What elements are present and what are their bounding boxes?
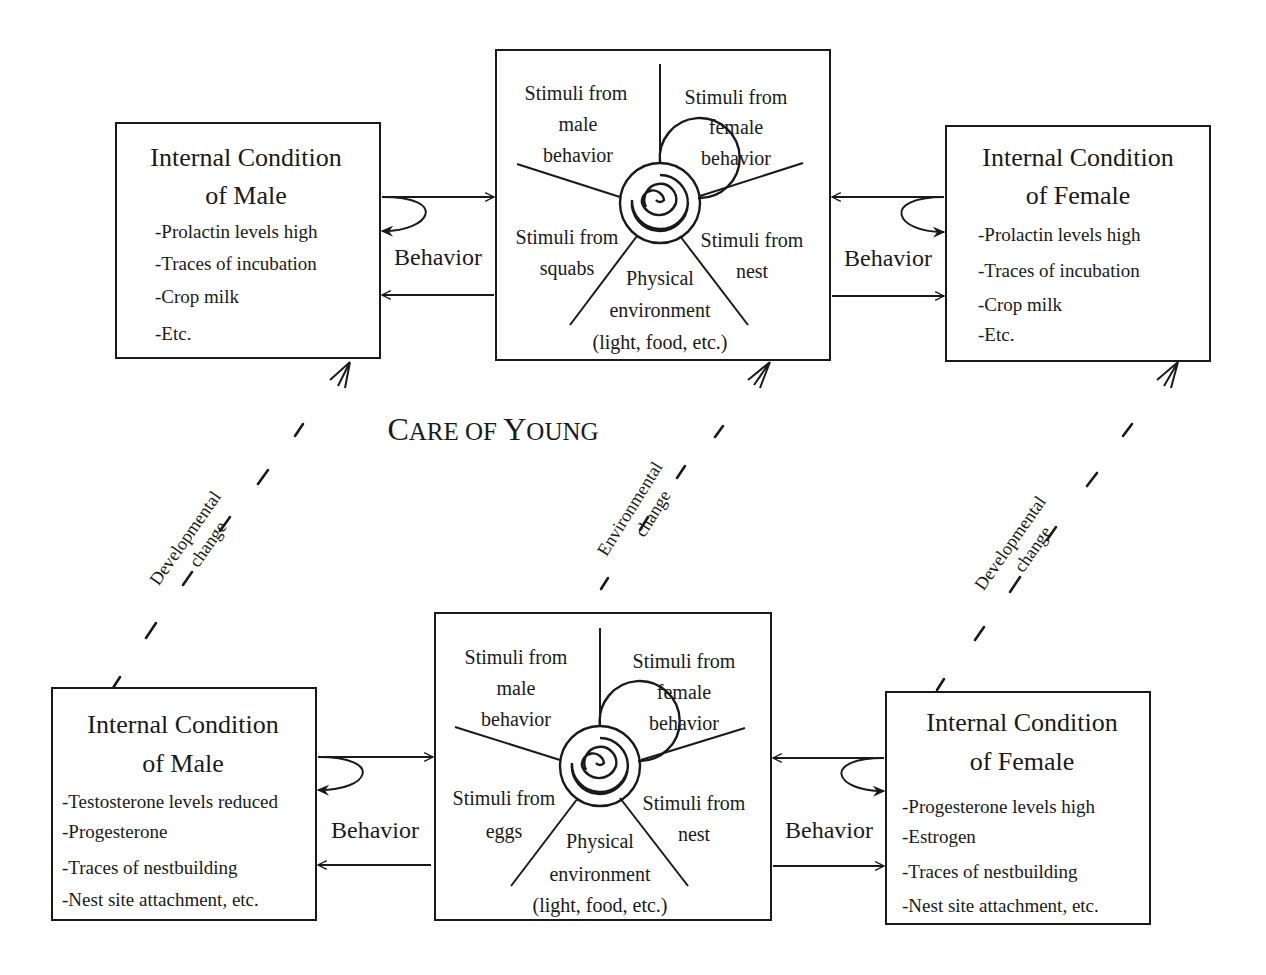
- bottom-stim-female-l2: female: [657, 681, 712, 703]
- top-stim-nest-l2: nest: [736, 260, 769, 282]
- loop-arrow-icon: [901, 197, 944, 232]
- bottom-stim-female-l3: behavior: [649, 712, 719, 734]
- bottom-male-item: -Traces of nestbuilding: [62, 857, 238, 878]
- top-stim-male-l2: male: [559, 113, 598, 135]
- loop-arrow-icon: [382, 197, 426, 231]
- bottom-left-behavior-link: Behavior: [318, 757, 433, 865]
- bottom-male-title-line2: of Male: [142, 749, 224, 778]
- bottom-female-title-line1: Internal Condition: [926, 708, 1117, 737]
- bottom-female-item: -Estrogen: [902, 826, 976, 847]
- top-stim-female-l3: behavior: [701, 147, 771, 169]
- bottom-stim-male-l3: behavior: [481, 708, 551, 730]
- bottom-stim-phys-l3: (light, food, etc.): [533, 894, 668, 917]
- bottom-stim-male-l2: male: [497, 677, 536, 699]
- arrow-up-icon: [748, 362, 770, 388]
- bottom-stim-nest-l2: nest: [678, 823, 711, 845]
- bottom-right-behavior-link: Behavior: [773, 758, 884, 866]
- bottom-stim-nest-l1: Stimuli from: [643, 792, 746, 814]
- top-female-item: -Prolactin levels high: [978, 224, 1141, 245]
- top-male-condition-box: Internal Condition of Male -Prolactin le…: [116, 123, 380, 358]
- top-stim-nest-l1: Stimuli from: [701, 229, 804, 251]
- bottom-female-item: -Progesterone levels high: [902, 796, 1096, 817]
- left-developmental-change-arrow: Developmental change: [113, 362, 350, 688]
- bottom-stimuli-box: Stimuli from male behavior Stimuli from …: [435, 613, 771, 920]
- bottom-male-item: -Progesterone: [62, 821, 168, 842]
- bottom-male-item: -Testosterone levels reduced: [62, 791, 279, 812]
- loop-arrow-icon: [318, 757, 363, 790]
- arrow-up-icon: [330, 362, 350, 388]
- top-male-item: -Prolactin levels high: [155, 221, 318, 242]
- top-female-item: -Traces of incubation: [978, 260, 1140, 281]
- top-male-title-line2: of Male: [205, 181, 287, 210]
- top-stim-young-l2: squabs: [540, 257, 595, 280]
- loop-arrow-icon: [841, 758, 884, 791]
- top-female-title-line2: of Female: [1026, 181, 1131, 210]
- bottom-right-behavior-label: Behavior: [785, 817, 873, 843]
- bottom-stim-phys-l1: Physical: [566, 830, 634, 853]
- top-stim-female-l2: female: [709, 116, 764, 138]
- right-developmental-change-arrow: Developmental change: [937, 362, 1178, 690]
- top-male-item: -Traces of incubation: [155, 253, 317, 274]
- bottom-stim-female-l1: Stimuli from: [633, 650, 736, 672]
- top-male-item: -Crop milk: [155, 286, 239, 307]
- bottom-male-condition-box: Internal Condition of Male -Testosterone…: [52, 688, 316, 920]
- top-left-behavior-label: Behavior: [394, 244, 482, 270]
- top-stimuli-box: Stimuli from male behavior Stimuli from …: [496, 50, 830, 360]
- top-female-item: -Crop milk: [978, 294, 1062, 315]
- top-stim-male-l3: behavior: [543, 144, 613, 166]
- bottom-male-item: -Nest site attachment, etc.: [62, 889, 259, 910]
- top-left-behavior-link: Behavior: [382, 197, 494, 295]
- top-stim-female-l1: Stimuli from: [685, 86, 788, 108]
- top-male-title-line1: Internal Condition: [150, 143, 341, 172]
- top-female-item: -Etc.: [978, 324, 1014, 345]
- bottom-stim-phys-l2: environment: [549, 863, 651, 885]
- bottom-left-behavior-label: Behavior: [331, 817, 419, 843]
- bottom-stim-young-l1: Stimuli from: [453, 787, 556, 809]
- bottom-female-condition-box: Internal Condition of Female -Progestero…: [886, 692, 1150, 924]
- top-stim-phys-l1: Physical: [626, 267, 694, 290]
- top-female-title-line1: Internal Condition: [982, 143, 1173, 172]
- top-right-behavior-label: Behavior: [844, 245, 932, 271]
- bottom-male-title-line1: Internal Condition: [87, 710, 278, 739]
- top-stim-phys-l2: environment: [609, 299, 711, 321]
- care-of-young-diagram: Internal Condition of Male -Prolactin le…: [0, 0, 1266, 975]
- bottom-female-title-line2: of Female: [970, 747, 1075, 776]
- bottom-female-item: -Traces of nestbuilding: [902, 861, 1078, 882]
- top-female-condition-box: Internal Condition of Female -Prolactin …: [946, 126, 1210, 361]
- top-stim-young-l1: Stimuli from: [516, 226, 619, 248]
- bottom-female-item: -Nest site attachment, etc.: [902, 895, 1099, 916]
- bottom-stim-male-l1: Stimuli from: [465, 646, 568, 668]
- section-label-care-of-young: CARE OF YOUNG: [387, 411, 598, 447]
- arrow-up-icon: [1157, 362, 1178, 388]
- bottom-stim-young-l2: eggs: [486, 820, 523, 843]
- top-stim-phys-l3: (light, food, etc.): [593, 331, 728, 354]
- top-stim-male-l1: Stimuli from: [525, 82, 628, 104]
- top-male-item: -Etc.: [155, 323, 191, 344]
- middle-environmental-change-arrow: Environmental change: [593, 362, 770, 589]
- top-right-behavior-link: Behavior: [832, 197, 944, 296]
